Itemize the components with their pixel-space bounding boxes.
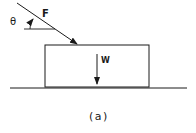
force-label: F (42, 8, 49, 19)
angle-arc-icon (30, 19, 33, 29)
weight-label: W (101, 56, 110, 65)
figure-caption: (a) (89, 110, 109, 123)
force-diagram: θ F W (a) (0, 0, 196, 133)
angle-label: θ (10, 16, 16, 27)
